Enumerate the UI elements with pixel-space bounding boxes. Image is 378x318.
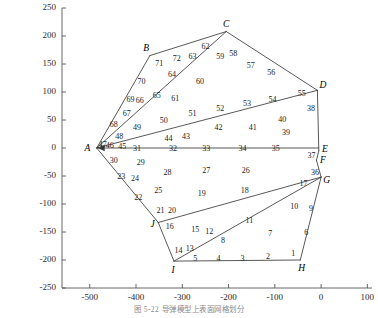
element-number: 24 <box>131 174 139 183</box>
node-label-A: A <box>85 143 91 153</box>
element-number: 44 <box>164 133 172 142</box>
element-number: 7 <box>268 229 272 238</box>
y-tick--200: -200 <box>8 254 56 264</box>
node-label-E: E <box>322 144 328 154</box>
element-number: 8 <box>221 236 225 245</box>
element-number: 18 <box>241 186 249 195</box>
element-number: 49 <box>133 122 141 131</box>
element-number: 46 <box>106 141 114 150</box>
element-number: 22 <box>134 193 142 202</box>
element-number: 61 <box>171 93 179 102</box>
element-number: 11 <box>246 215 254 224</box>
element-number: 25 <box>154 186 162 195</box>
element-number: 54 <box>269 94 277 103</box>
x-tick--200: -200 <box>204 292 254 302</box>
element-number: 38 <box>307 103 315 112</box>
edge-GH <box>300 177 321 260</box>
x-tick-100: 100 <box>342 292 378 302</box>
element-number: 9 <box>309 204 313 213</box>
element-number: 51 <box>188 108 196 117</box>
element-number: 70 <box>138 76 146 85</box>
element-number: 59 <box>216 51 224 60</box>
element-number: 40 <box>278 114 286 123</box>
element-number: 42 <box>214 122 222 131</box>
element-number: 21 <box>157 205 165 214</box>
element-number: 66 <box>136 96 144 105</box>
element-number: 29 <box>137 158 145 167</box>
element-number: 20 <box>168 205 176 214</box>
x-tick--500: -500 <box>65 292 115 302</box>
node-label-F: F <box>320 155 326 165</box>
x-tick-0: 0 <box>296 292 346 302</box>
element-number: 35 <box>272 144 280 153</box>
element-number: 41 <box>249 122 257 131</box>
element-number: 57 <box>247 61 255 70</box>
element-number: 4 <box>216 253 220 262</box>
node-label-C: C <box>223 19 229 29</box>
node-label-J: J <box>151 219 155 229</box>
x-tick--100: -100 <box>250 292 300 302</box>
node-label-B: B <box>143 43 149 53</box>
element-number: 50 <box>160 116 168 125</box>
element-number: 69 <box>126 94 134 103</box>
element-number: 32 <box>169 144 177 153</box>
edge-JA <box>97 148 159 222</box>
element-number: 62 <box>201 42 209 51</box>
element-number: 5 <box>193 253 197 262</box>
element-number: 28 <box>163 167 171 176</box>
element-number: 39 <box>282 128 290 137</box>
node-label-I: I <box>171 265 174 275</box>
element-number: 15 <box>191 224 199 233</box>
element-number: 16 <box>166 221 174 230</box>
element-number: 47 <box>99 140 107 149</box>
element-number: 71 <box>155 58 163 67</box>
element-number: 36 <box>311 168 319 177</box>
element-number: 53 <box>243 99 251 108</box>
element-number: 43 <box>182 131 190 140</box>
element-number: 60 <box>196 76 204 85</box>
element-number: 1 <box>291 249 295 258</box>
element-number: 30 <box>110 156 118 165</box>
element-number: 10 <box>290 202 298 211</box>
element-number: 52 <box>216 103 224 112</box>
element-number: 6 <box>304 228 308 237</box>
element-number: 64 <box>168 70 176 79</box>
element-number: 55 <box>298 89 306 98</box>
y-tick--50: -50 <box>8 170 56 180</box>
y-tick-50: 50 <box>8 114 56 124</box>
y-tick--100: -100 <box>8 198 56 208</box>
element-number: 12 <box>205 226 213 235</box>
element-number: 14 <box>175 245 183 254</box>
element-number: 45 <box>118 142 126 151</box>
y-tick--150: -150 <box>8 226 56 236</box>
element-number: 65 <box>153 90 161 99</box>
element-number: 3 <box>240 253 244 262</box>
node-label-G: G <box>323 175 330 185</box>
element-number: 68 <box>110 120 118 129</box>
element-number: 26 <box>242 166 250 175</box>
element-number: 33 <box>202 144 210 153</box>
element-number: 67 <box>123 109 131 118</box>
element-number: 48 <box>115 131 123 140</box>
element-number: 72 <box>173 54 181 63</box>
element-number: 13 <box>186 243 194 252</box>
element-number: 31 <box>133 144 141 153</box>
y-tick-200: 200 <box>8 30 56 40</box>
edge-CD <box>226 32 317 91</box>
element-number: 37 <box>307 150 315 159</box>
element-number: 27 <box>202 166 210 175</box>
y-tick-100: 100 <box>8 86 56 96</box>
element-number: 23 <box>117 172 125 181</box>
figure-container: -250-200-150-100-50050100150200250 -500-… <box>0 0 378 318</box>
element-number: 34 <box>238 144 246 153</box>
y-tick-250: 250 <box>8 2 56 12</box>
element-number: 2 <box>266 251 270 260</box>
element-number: 63 <box>188 51 196 60</box>
y-tick-150: 150 <box>8 58 56 68</box>
y-tick-0: 0 <box>8 142 56 152</box>
figure-caption: 图 5-22 导弹模型上表面网格划分 <box>0 303 378 318</box>
element-number: 56 <box>267 68 275 77</box>
x-tick--400: -400 <box>111 292 161 302</box>
node-label-D: D <box>320 80 327 90</box>
y-tick--250: -250 <box>8 282 56 292</box>
